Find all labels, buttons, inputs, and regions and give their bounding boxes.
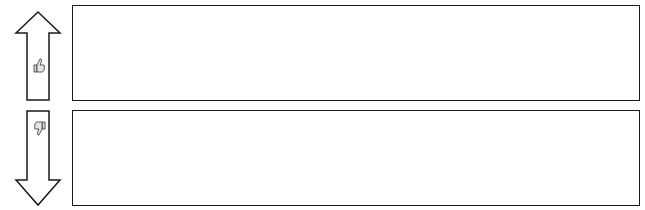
positive-box — [72, 5, 640, 101]
arrows-column — [0, 0, 72, 210]
negative-box — [72, 110, 640, 206]
up-arrow — [16, 12, 60, 100]
